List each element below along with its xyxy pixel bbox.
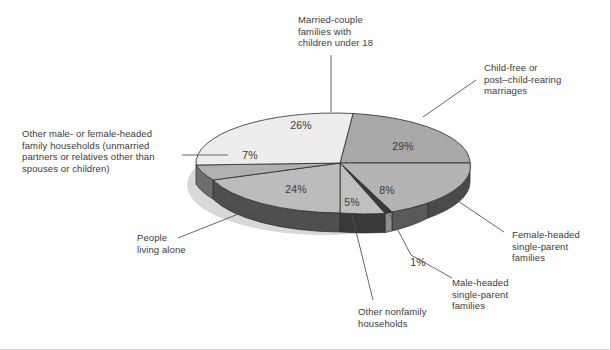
label-female-headed: Female-headed single-parent families: [512, 229, 608, 264]
pct-other-nonfamily: 5%: [344, 196, 360, 208]
leader-female-headed: [452, 197, 504, 232]
label-male-headed: Male-headed single-parent families: [452, 277, 548, 312]
pie-side-1: [385, 212, 392, 233]
label-other-nonfamily: Other nonfamily households: [358, 306, 462, 329]
pct-child-free: 29%: [392, 140, 414, 152]
pct-married-couple: 26%: [290, 119, 312, 131]
label-people-alone: People living alone: [137, 232, 227, 255]
pct-female-headed: 8%: [379, 184, 395, 196]
label-child-free: Child-free or post–child-rearing marriag…: [484, 62, 608, 97]
pie-slice-child-free[interactable]: [340, 114, 470, 164]
pct-people-alone: 24%: [285, 183, 307, 195]
pct-other-family: 7%: [242, 149, 258, 161]
leader-child-free: [423, 80, 476, 117]
pie-slice-married-couple[interactable]: [196, 113, 353, 165]
label-married-couple: Married-couple families with children un…: [298, 14, 428, 49]
pie-side-5: [340, 213, 385, 233]
label-other-family: Other male- or female-headed family hous…: [22, 128, 188, 174]
chart-canvas: 26% 29% 7% 24% 8% 5% 1% Married-couple f…: [0, 0, 611, 350]
